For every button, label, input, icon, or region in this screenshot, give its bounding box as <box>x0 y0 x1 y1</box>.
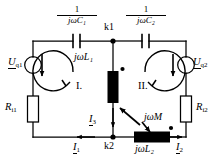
current-i3-subscript: 3 <box>93 118 96 125</box>
capacitor-c2-denominator: jωC₂ <box>126 16 166 25</box>
inductor-l1-label: jωL₁ <box>74 52 93 62</box>
voltage-source-left-subscript: q1 <box>16 61 23 68</box>
capacitor-c1-label: 1 jωC₁ <box>57 5 97 25</box>
arrow-mutual-to-l1 <box>120 108 140 125</box>
voltage-source-right-circle <box>178 57 195 74</box>
resistor-ri2-label: Ri2 <box>196 102 208 114</box>
voltage-source-right-symbol: U <box>193 57 201 69</box>
node-k1-dot <box>110 38 115 43</box>
resistor-ri1-subscript: i1 <box>11 106 16 113</box>
coupling-dot-l2 <box>169 126 173 130</box>
mesh-loop-right-head-b <box>148 82 152 86</box>
node-k2-dot <box>110 134 115 139</box>
voltage-source-right-label: Uq2 <box>193 57 208 69</box>
mesh-loop-left-head-b <box>66 82 70 86</box>
inductor-l2-body <box>134 132 170 143</box>
mesh-left-label: I. <box>76 81 82 92</box>
mesh-loop-right-head-a <box>152 80 156 86</box>
capacitor-c2-numerator: 1 <box>126 5 166 14</box>
resistor-ri2-body <box>181 96 192 122</box>
voltage-source-right-subscript: q2 <box>201 61 208 68</box>
coupling-dot-l1 <box>120 67 124 71</box>
mutual-inductance-label: jωM <box>144 112 162 122</box>
resistor-ri1-label: Ri1 <box>5 102 17 114</box>
current-i1-subscript: 1 <box>77 146 80 153</box>
mesh-loop-left-head-a <box>62 80 66 86</box>
inductor-l1-body <box>108 71 119 103</box>
node-k2-label: k2 <box>104 141 114 151</box>
resistor-ri2-subscript: i2 <box>202 106 207 113</box>
inductor-l2-label: jωL₂ <box>135 144 154 154</box>
voltage-source-left-label: Uq1 <box>8 57 23 69</box>
mesh-right-label: II. <box>138 81 148 92</box>
node-k1-label: k1 <box>104 22 114 32</box>
resistor-ri1-body <box>28 96 39 122</box>
current-i2-subscript: 2 <box>180 146 183 153</box>
capacitor-c1-denominator: jωC₁ <box>57 16 97 25</box>
current-i3-label: I3 <box>89 114 96 126</box>
current-i2-label: I2 <box>176 142 183 154</box>
capacitor-c1-numerator: 1 <box>57 5 97 14</box>
current-i1-label: I1 <box>73 142 80 154</box>
circuit-diagram: 1 jωC₁ 1 jωC₂ k1 Uq1 Uq2 Ri1 Ri2 jωL₁ jω… <box>0 0 223 160</box>
voltage-source-left-symbol: U <box>8 57 16 69</box>
arrow-mutual-to-l2 <box>142 122 150 132</box>
capacitor-c2-label: 1 jωC₂ <box>126 5 166 25</box>
